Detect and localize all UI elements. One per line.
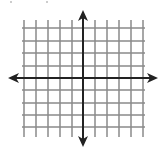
coordinate-plane <box>0 0 166 151</box>
